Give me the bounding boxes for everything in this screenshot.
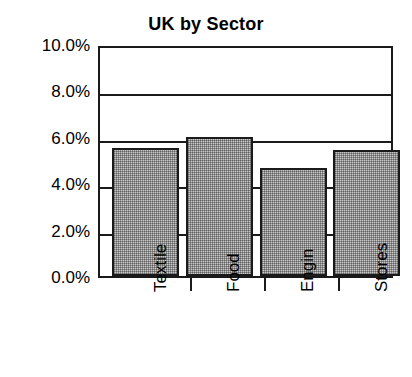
x-axis-tick xyxy=(190,278,192,291)
x-tick-label-stores: Stores xyxy=(373,243,390,292)
x-tick-label-textile: Textile xyxy=(152,244,169,292)
y-axis: 0.0%2.0%4.0%6.0%8.0%10.0% xyxy=(0,46,94,278)
chart-title: UK by Sector xyxy=(0,14,412,35)
x-tick-label-engin: Engin xyxy=(299,249,316,292)
plot-area xyxy=(98,46,393,278)
y-tick-label: 4.0% xyxy=(0,176,94,193)
y-tick-label: 6.0% xyxy=(0,130,94,147)
gridline-8.0 xyxy=(100,94,391,96)
y-tick-label: 10.0% xyxy=(0,37,94,54)
y-tick-label: 8.0% xyxy=(0,83,94,100)
x-axis-tick xyxy=(264,278,266,291)
x-tick-label-food: Food xyxy=(225,253,242,292)
bar-chart: UK by Sector 0.0%2.0%4.0%6.0%8.0%10.0% T… xyxy=(0,0,412,377)
y-tick-label: 0.0% xyxy=(0,269,94,286)
y-tick-label: 2.0% xyxy=(0,223,94,240)
x-axis-tick xyxy=(338,278,340,291)
